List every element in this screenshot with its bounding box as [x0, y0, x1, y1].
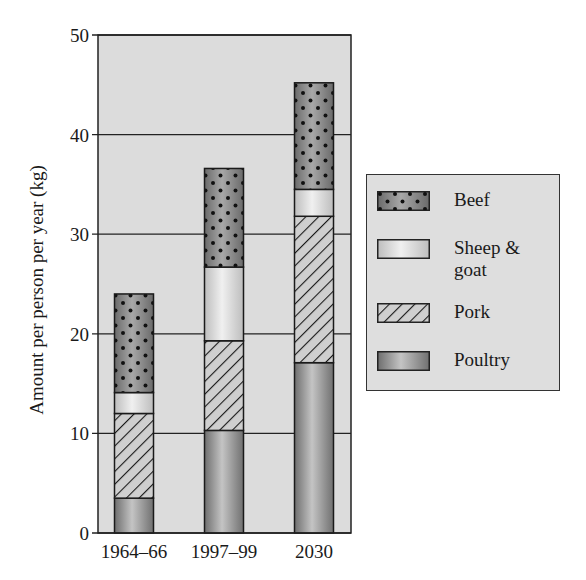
legend-item-beef: Beef — [377, 191, 490, 211]
bar-segment-poultry — [115, 498, 154, 533]
y-tick-label: 50 — [70, 25, 89, 46]
y-tick-label: 0 — [80, 523, 90, 544]
bar-segment-pork — [295, 216, 334, 362]
legend-label: Sheep & — [454, 237, 520, 259]
legend-item-sheep-goat: Sheep & goat — [377, 239, 520, 281]
legend-label: goat — [454, 259, 520, 281]
legend-item-pork: Pork — [377, 303, 490, 323]
legend-label: Poultry — [454, 349, 510, 371]
bar-segment-sheep-goat — [295, 189, 334, 216]
y-tick-label: 10 — [70, 423, 89, 444]
legend-item-poultry: Poultry — [377, 351, 510, 371]
y-tick-label: 20 — [70, 324, 89, 345]
x-tick-label: 1997–99 — [191, 541, 258, 562]
x-tick-label: 2030 — [295, 541, 333, 562]
bar-segment-pork — [115, 413, 154, 498]
poultry-swatch — [377, 351, 430, 371]
bar-segment-beef — [205, 168, 244, 267]
pork-swatch — [377, 303, 430, 323]
bar-segment-beef — [115, 294, 154, 393]
bar-segment-beef — [295, 83, 334, 190]
bar-segment-pork — [205, 341, 244, 431]
legend: Beef Sheep & goat Pork Poultry — [366, 174, 560, 391]
bar-segment-sheep-goat — [205, 267, 244, 341]
legend-label: Beef — [454, 189, 490, 211]
y-axis-label: Amount per person per year (kg) — [26, 165, 48, 415]
beef-swatch — [377, 191, 430, 211]
bar-segment-poultry — [295, 363, 334, 533]
plot-area: 010203040501964–661997–992030 — [70, 25, 351, 562]
bar-segment-poultry — [205, 430, 244, 533]
x-tick-label: 1964–66 — [101, 541, 168, 562]
bar-segment-sheep-goat — [115, 393, 154, 414]
y-tick-label: 30 — [70, 224, 89, 245]
legend-label: Pork — [454, 301, 490, 323]
y-tick-label: 40 — [70, 125, 89, 146]
sheep-goat-swatch — [377, 239, 430, 259]
